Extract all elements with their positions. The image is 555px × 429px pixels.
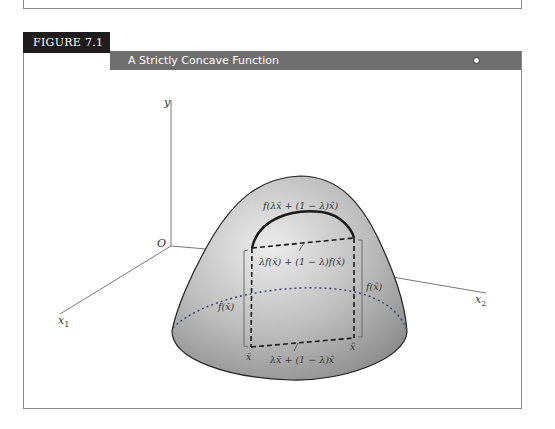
x2-axis: [392, 277, 486, 293]
label-f-xbar: f(x̄): [217, 301, 235, 312]
x1-axis: [60, 246, 171, 314]
label-combination-x: λx̄ + (1 − λ)x̂: [269, 354, 335, 365]
x1-axis-label: x1: [58, 314, 69, 329]
y-axis-label: y: [163, 96, 171, 109]
label-f-xhat: f(x̂): [365, 281, 383, 292]
origin-label: O: [157, 237, 166, 250]
label-xhat: x̂: [350, 341, 356, 352]
label-xbar: x̄: [246, 351, 252, 362]
concave-function-plot: y O x1 x2 f(λx̄ + (1 − λ)x̂) λf(x̄) + (1…: [0, 0, 555, 429]
label-combination-of-f: λf(x̄) + (1 − λ)f(x̂): [258, 256, 345, 267]
label-f-of-combination: f(λx̄ + (1 − λ)x̂): [262, 200, 338, 211]
x2-axis-label: x2: [475, 293, 486, 308]
